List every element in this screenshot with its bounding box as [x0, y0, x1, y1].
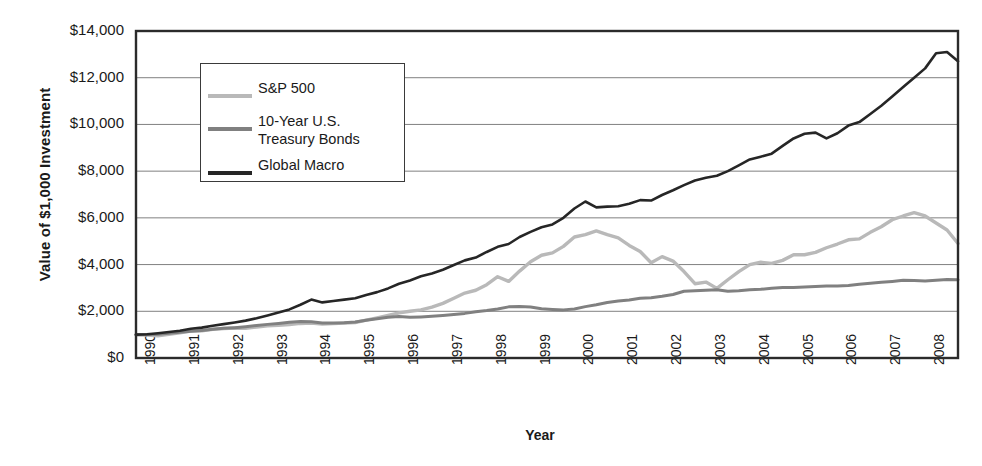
- legend-swatch-treasury: [208, 127, 252, 131]
- legend-swatch-global-macro: [208, 171, 252, 175]
- legend-label-sp500: S&P 500: [258, 79, 315, 97]
- legend-label-treasury: 10-Year U.S.: [258, 112, 340, 130]
- plot-canvas: [0, 0, 982, 466]
- chart-root: Value of $1,000 Investment Year $0$2,000…: [0, 0, 982, 466]
- legend-swatch-sp500: [208, 94, 252, 98]
- legend: S&P 500 10-Year U.S. Treasury Bonds Glob…: [200, 63, 405, 182]
- legend-label-treasury-line2: Treasury Bonds: [258, 130, 360, 148]
- series-line: [136, 280, 958, 335]
- legend-label-global-macro: Global Macro: [258, 156, 344, 174]
